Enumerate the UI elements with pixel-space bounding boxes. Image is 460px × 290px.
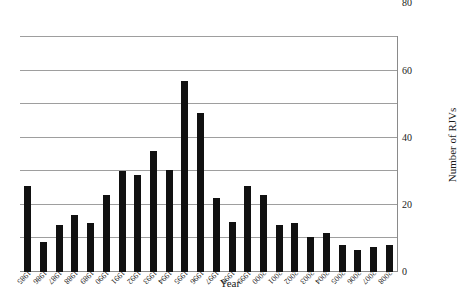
bar[interactable] — [213, 198, 220, 272]
bar[interactable] — [87, 223, 94, 272]
bar[interactable] — [166, 170, 173, 272]
bar-group[interactable]: 2005 — [334, 37, 350, 272]
bar-group[interactable]: 1998 — [224, 37, 240, 272]
bar-group[interactable]: 2001 — [271, 37, 287, 272]
bar-group[interactable]: 1987 — [51, 37, 67, 272]
bar-group[interactable]: 1995 — [177, 37, 193, 272]
bar[interactable] — [40, 242, 47, 272]
bar[interactable] — [24, 186, 31, 272]
plot-area: 020406080100120140 200820072006200520042… — [20, 36, 398, 272]
bar-group[interactable]: 1990 — [99, 37, 115, 272]
y-tick-label: 80 — [402, 0, 412, 8]
bar[interactable] — [197, 113, 204, 272]
bar-group[interactable]: 1985 — [20, 37, 36, 272]
bar[interactable] — [260, 195, 267, 272]
bar[interactable] — [119, 171, 126, 272]
bar[interactable] — [244, 186, 251, 272]
y-tick-label: 20 — [402, 198, 412, 209]
bar-group[interactable]: 1992 — [130, 37, 146, 272]
bar-group[interactable]: 2000 — [256, 37, 272, 272]
bar[interactable] — [307, 237, 314, 272]
bar[interactable] — [291, 223, 298, 272]
bar-group[interactable]: 1989 — [83, 37, 99, 272]
bar-group[interactable]: 1986 — [36, 37, 52, 272]
bar-group[interactable]: 2003 — [303, 37, 319, 272]
y-tick-label: 40 — [402, 131, 412, 142]
bar-group[interactable]: 2007 — [366, 37, 382, 272]
bar-group[interactable]: 1994 — [161, 37, 177, 272]
bar-group[interactable]: 2008 — [381, 37, 397, 272]
bar[interactable] — [323, 233, 330, 272]
bar-group[interactable]: 1999 — [240, 37, 256, 272]
bar[interactable] — [134, 175, 141, 272]
bar[interactable] — [229, 222, 236, 272]
bar[interactable] — [150, 151, 157, 272]
y-tick-label: 60 — [402, 64, 412, 75]
bar-group[interactable]: 1993 — [146, 37, 162, 272]
bar-group[interactable]: 1988 — [67, 37, 83, 272]
bar[interactable] — [276, 225, 283, 272]
bars-layer: 2008200720062005200420032002200120001999… — [20, 37, 397, 272]
bar-group[interactable]: 2006 — [350, 37, 366, 272]
bar-group[interactable]: 2002 — [287, 37, 303, 272]
y-tick-label: 0 — [402, 266, 407, 277]
bar[interactable] — [103, 195, 110, 272]
bar[interactable] — [56, 225, 63, 272]
bar-group[interactable]: 1997 — [209, 37, 225, 272]
chart-figure: Year Number of RJVs 020406080100120140 2… — [0, 0, 460, 290]
bar[interactable] — [181, 81, 188, 272]
bar[interactable] — [72, 215, 79, 272]
y-axis-title: Number of RJVs — [446, 108, 458, 183]
bar-group[interactable]: 1996 — [193, 37, 209, 272]
bar-group[interactable]: 2004 — [318, 37, 334, 272]
bar-group[interactable]: 1991 — [114, 37, 130, 272]
